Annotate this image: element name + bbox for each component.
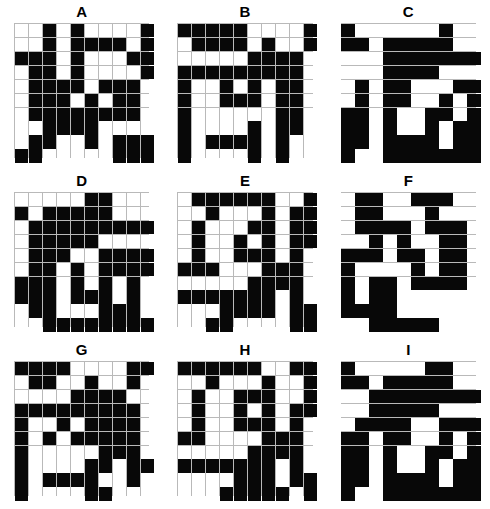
grid-cell — [341, 290, 354, 303]
grid-cell — [57, 473, 70, 486]
grid-cell — [141, 80, 154, 93]
grid-cell — [262, 94, 275, 107]
grid-cell — [425, 121, 438, 134]
grid-cell — [192, 121, 205, 134]
grid-cell — [234, 80, 247, 93]
grid-cell — [57, 376, 70, 389]
grid-cell — [453, 121, 466, 134]
grid-cell — [355, 135, 368, 148]
grid-cell — [383, 221, 396, 234]
grid-cell — [453, 80, 466, 93]
grid-cell — [425, 52, 438, 65]
pattern-grid-d — [14, 192, 149, 327]
grid-cell — [206, 52, 219, 65]
grid-cell — [113, 304, 126, 317]
grid-cell — [113, 94, 126, 107]
grid-cell — [234, 290, 247, 303]
grid-cell — [71, 121, 84, 134]
grid-cell — [127, 221, 140, 234]
panel-row-2: D E F — [0, 171, 490, 340]
grid-cell — [369, 80, 382, 93]
grid-cell — [397, 459, 410, 472]
grid-cell — [15, 487, 28, 500]
grid-cell — [15, 207, 28, 220]
grid-cell — [290, 432, 303, 445]
grid-cell — [248, 94, 261, 107]
grid-cell — [127, 446, 140, 459]
grid-cell — [220, 263, 233, 276]
grid-cell — [178, 432, 191, 445]
grid-cell — [43, 249, 56, 262]
grid-cell — [467, 193, 480, 206]
pattern-grid-e — [177, 192, 312, 327]
grid-cell — [276, 318, 289, 331]
grid-cell — [15, 404, 28, 417]
grid-cell — [304, 263, 317, 276]
grid-cell — [85, 432, 98, 445]
grid-cell — [206, 432, 219, 445]
grid-cell — [220, 94, 233, 107]
grid-cell — [369, 24, 382, 37]
grid-cell — [43, 121, 56, 134]
grid-cell — [304, 390, 317, 403]
grid-cell — [192, 290, 205, 303]
grid-cell — [43, 207, 56, 220]
grid-cell — [467, 362, 480, 375]
grid-cell — [57, 446, 70, 459]
grid-cell — [355, 52, 368, 65]
grid-cell — [276, 38, 289, 51]
grid-cell — [304, 221, 317, 234]
grid-cell — [262, 362, 275, 375]
grid-cell — [192, 149, 205, 162]
grid-cell — [276, 235, 289, 248]
grid-cell — [467, 80, 480, 93]
grid-cell — [411, 249, 424, 262]
grid-cell — [71, 362, 84, 375]
grid-cell — [467, 263, 480, 276]
grid-cell — [29, 446, 42, 459]
grid-cell — [276, 193, 289, 206]
grid-cell — [369, 66, 382, 79]
grid-cell — [248, 193, 261, 206]
panel-c: C — [332, 2, 484, 158]
grid-cell — [439, 121, 452, 134]
grid-cell — [425, 249, 438, 262]
grid-cell — [355, 66, 368, 79]
grid-cell — [234, 418, 247, 431]
grid-cell — [467, 66, 480, 79]
grid-cell — [383, 235, 396, 248]
grid-cell — [355, 80, 368, 93]
grid-cell — [290, 290, 303, 303]
grid-cell — [397, 487, 410, 500]
grid-cell — [425, 235, 438, 248]
pattern-grid-h — [177, 361, 312, 496]
grid-cell — [220, 432, 233, 445]
grid-cell — [355, 249, 368, 262]
grid-cell — [85, 108, 98, 121]
grid-cell — [411, 94, 424, 107]
grid-cell — [304, 94, 317, 107]
grid-cell — [43, 108, 56, 121]
grid-cell — [383, 376, 396, 389]
grid-cell — [57, 108, 70, 121]
grid-cell — [192, 277, 205, 290]
grid-cell — [99, 66, 112, 79]
grid-cell — [304, 487, 317, 500]
grid-cell — [57, 249, 70, 262]
grid-cell — [276, 290, 289, 303]
grid-cell — [127, 80, 140, 93]
grid-cell — [397, 24, 410, 37]
grid-cell — [141, 446, 154, 459]
grid-cell — [71, 207, 84, 220]
grid-cell — [85, 404, 98, 417]
grid-cell — [85, 277, 98, 290]
panel-label-d: D — [76, 171, 87, 192]
grid-cell — [355, 459, 368, 472]
grid-cell — [467, 149, 480, 162]
grid-cell — [383, 277, 396, 290]
grid-cell — [276, 24, 289, 37]
grid-cell — [178, 249, 191, 262]
panel-label-c: C — [403, 2, 414, 23]
grid-cell — [178, 376, 191, 389]
grid-cell — [85, 38, 98, 51]
